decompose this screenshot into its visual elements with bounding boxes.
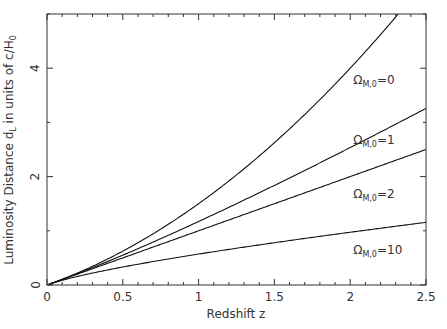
curve-label: ΩM,0=2 [353,187,394,203]
x-tick-label: 1 [195,290,203,304]
x-tick-label: 1.5 [265,290,284,304]
luminosity-distance-chart: 00.511.522.5 024 ΩM,0=0ΩM,0=1ΩM,0=2ΩM,0=… [0,0,447,329]
axis-ticks [47,14,426,285]
y-tick-labels: 024 [29,64,43,288]
plot-frame [47,14,426,285]
y-tick-label: 0 [29,281,43,289]
y-tick-label: 4 [29,64,43,72]
x-tick-labels: 00.511.522.5 [43,290,435,304]
x-tick-label: 2.5 [416,290,435,304]
x-tick-label: 0 [43,290,51,304]
curve-omega-2 [47,150,426,286]
x-tick-label: 0.5 [113,290,132,304]
x-axis-title: Redshift z [207,307,266,321]
y-tick-label: 2 [29,173,43,181]
curve-label: ΩM,0=10 [353,243,402,259]
y-axis-title: Luminosity Distance dL in units of c/H0 [2,35,18,265]
curve-label: ΩM,0=0 [353,73,394,89]
x-tick-label: 2 [346,290,354,304]
